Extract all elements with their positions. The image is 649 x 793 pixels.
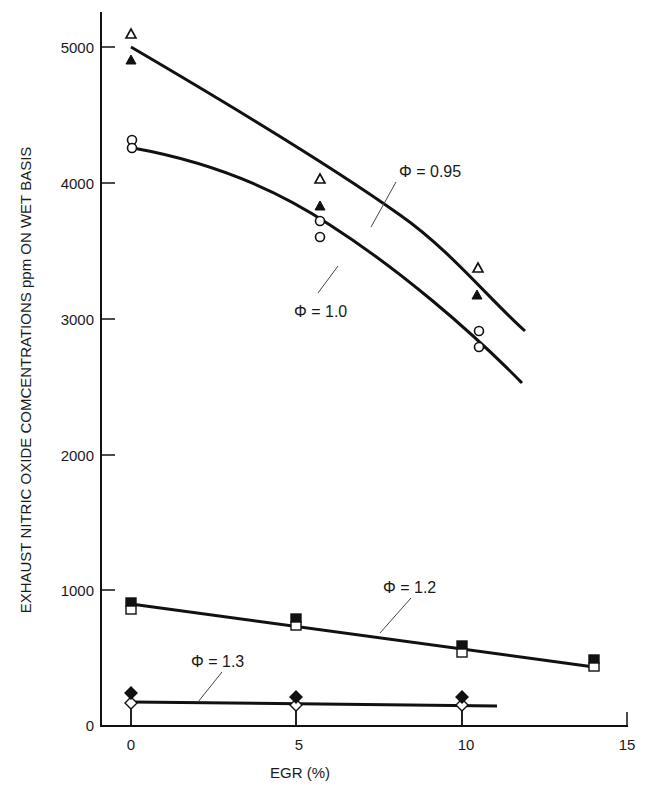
nox-vs-egr-chart: 0 1000 2000 3000 4000 5000 0 5 10 15 EGR… xyxy=(0,0,649,793)
label-phi-0.95: Φ = 0.95 xyxy=(399,163,461,180)
x-ticks xyxy=(131,710,627,726)
leader-phi-1.2 xyxy=(380,598,411,633)
x-tick-label-10: 10 xyxy=(458,736,475,753)
label-phi-1.3: Φ = 1.3 xyxy=(191,653,244,670)
y-axis-title: EXHAUST NITRIC OXIDE COMCENTRATIONS ppm … xyxy=(17,147,34,614)
curve-phi-0.95 xyxy=(131,47,525,331)
y-tick-label-3000: 3000 xyxy=(61,311,94,328)
x-tick-label-15: 15 xyxy=(619,736,636,753)
x-tick-label-5: 5 xyxy=(295,736,303,753)
x-tick-label-0: 0 xyxy=(127,736,135,753)
curve-phi-1.0 xyxy=(133,148,522,383)
y-tick-label-2000: 2000 xyxy=(61,447,94,464)
curve-phi-1.3 xyxy=(131,702,497,706)
y-tick-label-1000: 1000 xyxy=(61,582,94,599)
label-phi-1.0: Φ = 1.0 xyxy=(294,303,347,320)
x-axis-title: EGR (%) xyxy=(270,764,330,781)
y-tick-label-0: 0 xyxy=(86,717,94,734)
y-ticks xyxy=(101,47,115,590)
y-tick-label-4000: 4000 xyxy=(61,175,94,192)
y-tick-label-5000: 5000 xyxy=(61,39,94,56)
leader-phi-1.3 xyxy=(198,672,222,702)
leader-phi-0.95 xyxy=(371,182,396,227)
label-phi-1.2: Φ = 1.2 xyxy=(383,579,436,596)
leader-phi-1.0 xyxy=(318,266,338,293)
